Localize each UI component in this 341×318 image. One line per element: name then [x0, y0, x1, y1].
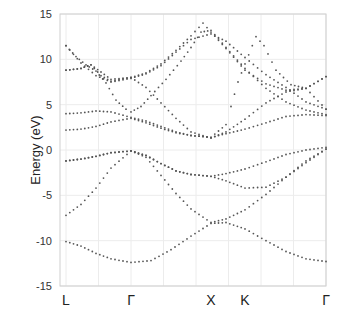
band-structure-chart: 151050-5-10-15 LΓXKΓ Energy (eV): [0, 0, 341, 318]
y-tick-label: 5: [46, 99, 52, 111]
y-tick-label: -5: [42, 189, 52, 201]
y-tick-label: 0: [46, 144, 52, 156]
grid: [60, 14, 326, 286]
y-tick-label: -10: [36, 235, 52, 247]
y-tick-label: 10: [40, 53, 52, 65]
k-point-label: L: [62, 292, 70, 308]
k-point-label: X: [206, 292, 216, 308]
y-tick-label: 15: [40, 8, 52, 20]
k-point-label: K: [240, 292, 250, 308]
k-point-label: Γ: [322, 292, 330, 308]
k-point-label: Γ: [127, 292, 135, 308]
y-axis-label: Energy (eV): [28, 115, 43, 184]
k-point-labels: LΓXKΓ: [62, 292, 330, 308]
y-tick-label: -15: [36, 280, 52, 292]
